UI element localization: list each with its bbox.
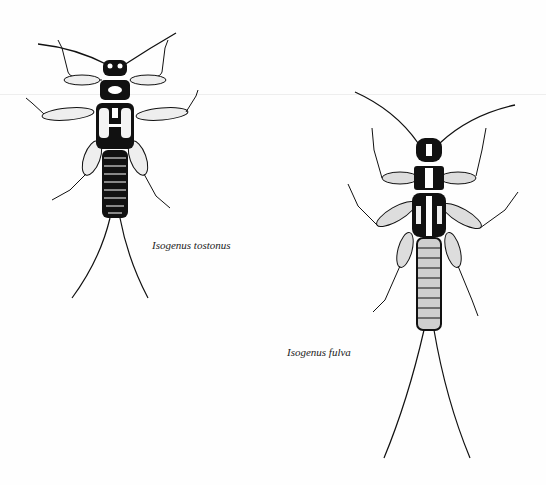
species-label-tostonus: Isogenus tostonus xyxy=(152,239,231,251)
species-label-fulva: Isogenus fulva xyxy=(287,346,351,358)
specimen-illustration-fulva xyxy=(0,0,546,485)
illustration-plate: Isogenus tostonus Isogenus fulva xyxy=(0,0,546,485)
